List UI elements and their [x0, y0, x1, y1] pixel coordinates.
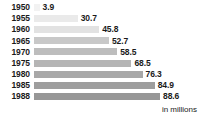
bar-track: 30.7 [34, 13, 202, 24]
bar-track: 58.5 [34, 46, 202, 57]
bar [34, 15, 78, 22]
horizontal-bar-chart: 1950 3.9 1955 30.7 1960 45.8 1965 [0, 0, 202, 115]
bar-track: 84.9 [34, 80, 202, 91]
table-row: 1975 68.5 [0, 57, 202, 68]
category-label: 1988 [0, 92, 34, 101]
category-label: 1975 [0, 59, 34, 68]
category-label: 1960 [0, 25, 34, 34]
bar-track: 68.5 [34, 57, 202, 68]
table-row: 1960 45.8 [0, 24, 202, 35]
value-label: 76.3 [143, 70, 162, 79]
bar [34, 48, 117, 55]
bar [34, 82, 155, 89]
value-label: 3.9 [40, 3, 55, 12]
value-label: 52.7 [109, 37, 128, 46]
bar [34, 93, 160, 100]
category-label: 1965 [0, 37, 34, 46]
value-label: 58.5 [117, 48, 136, 57]
table-row: 1980 76.3 [0, 69, 202, 80]
category-label: 1970 [0, 48, 34, 57]
value-label: 84.9 [155, 81, 174, 90]
category-label: 1955 [0, 14, 34, 23]
bar-track: 45.8 [34, 24, 202, 35]
table-row: 1955 30.7 [0, 13, 202, 24]
bar-track: 52.7 [34, 35, 202, 46]
bar [34, 26, 99, 33]
value-label: 45.8 [99, 25, 118, 34]
bar [34, 60, 131, 67]
units-caption: in millions [162, 106, 197, 114]
category-label: 1950 [0, 3, 34, 12]
category-label: 1980 [0, 70, 34, 79]
table-row: 1950 3.9 [0, 2, 202, 13]
bar-track: 88.6 [34, 91, 202, 102]
value-label: 68.5 [131, 59, 150, 68]
table-row: 1965 52.7 [0, 35, 202, 46]
bar [34, 37, 109, 44]
bar-track: 76.3 [34, 69, 202, 80]
bar-rows: 1950 3.9 1955 30.7 1960 45.8 1965 [0, 2, 202, 102]
table-row: 1988 88.6 [0, 91, 202, 102]
table-row: 1985 84.9 [0, 80, 202, 91]
table-row: 1970 58.5 [0, 46, 202, 57]
value-label: 88.6 [160, 92, 179, 101]
value-label: 30.7 [78, 14, 97, 23]
bar-track: 3.9 [34, 2, 202, 13]
bar [34, 71, 143, 78]
category-label: 1985 [0, 81, 34, 90]
